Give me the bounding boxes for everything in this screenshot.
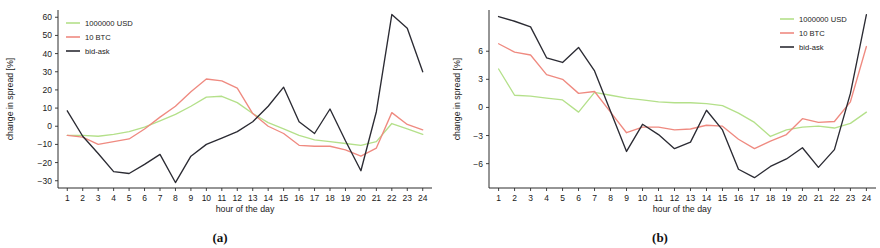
x-tick-label: 4 bbox=[544, 193, 549, 203]
plot-a: −30−20−100102030405060 12345678910111213… bbox=[0, 0, 440, 248]
y-tick-label: 6 bbox=[478, 46, 483, 56]
y-tick-label: 30 bbox=[43, 67, 53, 77]
y-tick-label: 50 bbox=[43, 30, 53, 40]
x-tick-label: 20 bbox=[356, 193, 366, 203]
x-tick-label: 1 bbox=[65, 193, 70, 203]
panel-caption-a: (a) bbox=[0, 230, 440, 246]
legend-label-1: 10 BTC bbox=[799, 29, 825, 38]
x-tick-label: 3 bbox=[96, 193, 101, 203]
x-tick-label: 13 bbox=[686, 193, 696, 203]
y-tick-label: 0 bbox=[47, 121, 52, 131]
x-tick-label: 9 bbox=[624, 193, 629, 203]
x-tick-label: 22 bbox=[387, 193, 397, 203]
plot-b: −6−3036 12345678910111213141516171819202… bbox=[440, 0, 880, 248]
legend-a: 1000000 USD10 BTCbid-ask bbox=[66, 19, 133, 56]
panel-b: −6−3036 12345678910111213141516171819202… bbox=[440, 0, 880, 248]
x-tick-label: 19 bbox=[341, 193, 351, 203]
y-tick-label: 0 bbox=[478, 102, 483, 112]
y-tick-label: 60 bbox=[43, 12, 53, 22]
legend-label-0: 1000000 USD bbox=[799, 15, 847, 24]
x-tick-label: 10 bbox=[202, 193, 212, 203]
x-tick-label: 23 bbox=[403, 193, 413, 203]
legend-label-2: bid-ask bbox=[799, 43, 824, 52]
y-axis-title-a: change in spread [%] bbox=[5, 58, 15, 141]
x-tick-label: 6 bbox=[142, 193, 147, 203]
x-tick-label: 2 bbox=[80, 193, 85, 203]
x-tick-label: 17 bbox=[310, 193, 320, 203]
x-axis-ticks-b: 123456789101112131415161718192021222324 bbox=[496, 188, 871, 203]
y-tick-label: −20 bbox=[38, 158, 53, 168]
chart-a-svg: −30−20−100102030405060 12345678910111213… bbox=[0, 0, 440, 222]
x-tick-label: 18 bbox=[325, 193, 335, 203]
x-tick-label: 3 bbox=[528, 193, 533, 203]
x-tick-label: 14 bbox=[702, 193, 712, 203]
x-tick-label: 24 bbox=[862, 193, 872, 203]
x-tick-label: 12 bbox=[233, 193, 243, 203]
y-tick-label: −6 bbox=[473, 159, 483, 169]
x-axis-title-b: hour of the day bbox=[653, 204, 712, 214]
x-tick-label: 22 bbox=[830, 193, 840, 203]
x-tick-label: 21 bbox=[814, 193, 824, 203]
y-tick-label: 20 bbox=[43, 85, 53, 95]
x-tick-label: 18 bbox=[766, 193, 776, 203]
y-tick-label: −10 bbox=[38, 139, 53, 149]
x-tick-label: 6 bbox=[576, 193, 581, 203]
x-tick-label: 13 bbox=[248, 193, 258, 203]
x-tick-label: 8 bbox=[173, 193, 178, 203]
figure-row: −30−20−100102030405060 12345678910111213… bbox=[0, 0, 880, 248]
y-tick-label: −3 bbox=[473, 131, 483, 141]
x-tick-label: 17 bbox=[750, 193, 760, 203]
x-tick-label: 19 bbox=[782, 193, 792, 203]
x-tick-label: 15 bbox=[279, 193, 289, 203]
x-tick-label: 12 bbox=[670, 193, 680, 203]
x-tick-label: 7 bbox=[158, 193, 163, 203]
x-tick-label: 20 bbox=[798, 193, 808, 203]
x-tick-label: 11 bbox=[654, 193, 663, 203]
y-tick-label: 40 bbox=[43, 49, 53, 59]
x-tick-label: 14 bbox=[263, 193, 273, 203]
legend-label-1: 10 BTC bbox=[85, 33, 111, 42]
x-tick-label: 21 bbox=[372, 193, 382, 203]
x-tick-label: 5 bbox=[127, 193, 132, 203]
x-tick-label: 16 bbox=[294, 193, 304, 203]
x-tick-label: 2 bbox=[512, 193, 517, 203]
x-tick-label: 1 bbox=[496, 193, 501, 203]
chart-a-axes bbox=[58, 10, 432, 188]
y-tick-label: 3 bbox=[478, 74, 483, 84]
series-line-bid-ask bbox=[499, 15, 867, 178]
legend-b: 1000000 USD10 BTCbid-ask bbox=[780, 15, 847, 52]
legend-label-0: 1000000 USD bbox=[85, 19, 133, 28]
series-group-b bbox=[499, 15, 867, 178]
x-tick-label: 7 bbox=[592, 193, 597, 203]
x-tick-label: 10 bbox=[638, 193, 648, 203]
panel-a: −30−20−100102030405060 12345678910111213… bbox=[0, 0, 440, 248]
x-tick-label: 4 bbox=[111, 193, 116, 203]
chart-b-svg: −6−3036 12345678910111213141516171819202… bbox=[440, 0, 880, 222]
series-line-bid-ask bbox=[67, 15, 422, 183]
y-tick-label: −30 bbox=[38, 176, 53, 186]
x-tick-label: 8 bbox=[608, 193, 613, 203]
series-line-10-btc bbox=[67, 79, 422, 156]
series-group-a bbox=[67, 15, 422, 183]
x-axis-ticks-a: 123456789101112131415161718192021222324 bbox=[65, 188, 428, 203]
series-line-1000000-usd bbox=[499, 69, 867, 136]
x-tick-label: 24 bbox=[418, 193, 428, 203]
legend-label-2: bid-ask bbox=[85, 47, 110, 56]
x-tick-label: 23 bbox=[846, 193, 856, 203]
y-axis-title-b: change in spread [%] bbox=[452, 58, 462, 141]
x-tick-label: 9 bbox=[189, 193, 194, 203]
panel-caption-b: (b) bbox=[440, 230, 880, 246]
x-axis-title-a: hour of the day bbox=[216, 204, 275, 214]
x-tick-label: 5 bbox=[560, 193, 565, 203]
x-tick-label: 11 bbox=[217, 193, 226, 203]
y-axis-ticks-a: −30−20−100102030405060 bbox=[38, 12, 58, 185]
y-tick-label: 10 bbox=[43, 103, 53, 113]
x-tick-label: 15 bbox=[718, 193, 728, 203]
x-tick-label: 16 bbox=[734, 193, 744, 203]
y-axis-ticks-b: −6−3036 bbox=[473, 46, 489, 168]
axis-frame-a bbox=[58, 10, 432, 188]
